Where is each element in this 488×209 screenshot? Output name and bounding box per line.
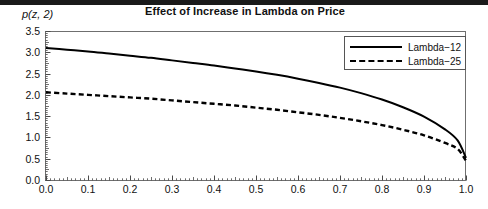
series-line-lambda-25 <box>46 92 466 161</box>
legend-line-dashed-icon <box>350 56 402 66</box>
legend-item-lambda-25: Lambda−25 <box>350 54 460 68</box>
legend-label-lambda-12: Lambda−12 <box>408 42 461 53</box>
y-axis-ticks <box>46 32 51 181</box>
legend-label-lambda-25: Lambda−25 <box>408 56 461 67</box>
legend-item-lambda-12: Lambda−12 <box>350 40 460 54</box>
plot-area <box>0 0 488 209</box>
legend-line-solid-icon <box>350 42 402 52</box>
chart-figure: Effect of Increase in Lambda on Price p(… <box>0 0 488 209</box>
x-axis-ticks <box>47 176 467 181</box>
chart-legend: Lambda−12 Lambda−25 <box>344 36 466 70</box>
